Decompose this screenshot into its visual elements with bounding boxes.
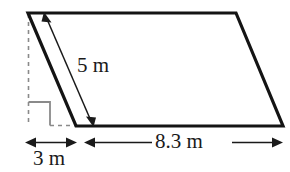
right-angle-marker xyxy=(29,102,51,126)
offset-dimension-label: 3 m xyxy=(33,148,65,169)
base-dimension-label: 8.3 m xyxy=(155,131,203,152)
height-dimension-label: 5 m xyxy=(77,55,109,76)
geometry-figure: 5 m 8.3 m 3 m xyxy=(0,0,290,172)
parallelogram-outline xyxy=(28,13,283,126)
